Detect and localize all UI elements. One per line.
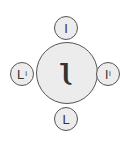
right-node: li — [96, 62, 120, 86]
bottom-node: L — [54, 107, 78, 131]
right-glyph: l — [105, 68, 108, 81]
glyph-diagram: ɩ I Li li L — [0, 0, 128, 143]
top-glyph: I — [64, 22, 68, 35]
left-node: Li — [10, 62, 34, 86]
left-glyph-suffix: i — [25, 70, 27, 78]
right-glyph-suffix: i — [109, 70, 111, 78]
bottom-glyph: L — [62, 113, 69, 126]
center-node: ɩ — [36, 42, 98, 104]
top-node: I — [54, 16, 78, 40]
center-glyph: ɩ — [59, 50, 75, 92]
left-glyph: L — [17, 68, 24, 81]
